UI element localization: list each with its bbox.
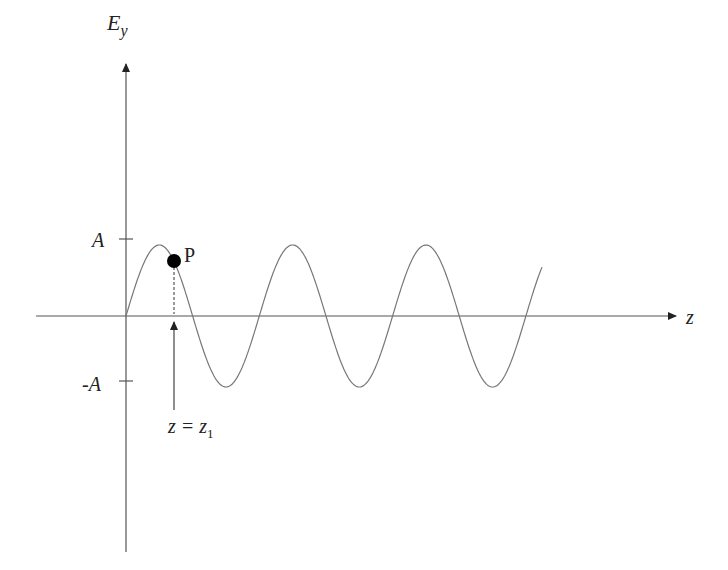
ey-axis-label: Ey [106, 10, 128, 40]
z-axis-label: z [685, 306, 694, 328]
wave-diagram: Ey z A -A P z = z1 [0, 0, 728, 570]
point-p-label: P [184, 244, 195, 266]
z1-annotation: z = z1 [167, 415, 214, 441]
point-p [167, 254, 181, 268]
tick-a-label: A [90, 229, 105, 251]
tick-neg-a-label: -A [82, 373, 102, 395]
